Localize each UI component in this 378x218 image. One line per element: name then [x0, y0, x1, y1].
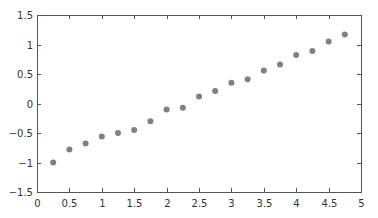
y-tick-label: 1 — [27, 40, 33, 51]
data-point — [326, 39, 332, 45]
x-tick-label: 3.5 — [257, 198, 273, 209]
x-tick-label: 0 — [34, 198, 40, 209]
data-point — [277, 62, 283, 68]
data-point — [196, 93, 202, 99]
x-tick-label: 4.5 — [322, 198, 338, 209]
x-tick-label: 3 — [228, 198, 234, 209]
data-point — [164, 106, 170, 112]
data-point — [309, 48, 315, 54]
scatter-points — [50, 31, 348, 165]
data-point — [212, 88, 218, 94]
y-tick-label: 0.5 — [17, 69, 33, 80]
y-tick-label: −1.5 — [9, 187, 33, 198]
y-tick-label: −0.5 — [9, 128, 33, 139]
x-tick-label: 2.5 — [192, 198, 208, 209]
data-point — [83, 141, 89, 147]
y-tick-label: 1.5 — [17, 10, 33, 21]
data-point — [99, 134, 105, 140]
axis-ticks — [37, 15, 362, 193]
x-tick-label: 0.5 — [62, 198, 78, 209]
x-tick-label: 5 — [358, 198, 364, 209]
data-point — [342, 31, 348, 37]
data-point — [147, 118, 153, 124]
x-axis-tick-labels: 00.511.522.533.544.55 — [34, 198, 364, 209]
x-tick-label: 1 — [99, 198, 105, 209]
y-tick-label: −1 — [18, 158, 33, 169]
data-point — [50, 160, 56, 166]
plot-area-frame — [38, 16, 362, 193]
data-point — [180, 105, 186, 111]
data-point — [66, 147, 72, 153]
y-axis-tick-labels: 1.510.50−0.5−1−1.5 — [9, 10, 33, 198]
scatter-chart: 00.511.522.533.544.55 1.510.50−0.5−1−1.5 — [0, 0, 378, 218]
data-point — [245, 76, 251, 82]
data-point — [131, 127, 137, 133]
data-point — [261, 67, 267, 73]
data-point — [115, 130, 121, 136]
data-point — [228, 80, 234, 86]
data-point — [293, 52, 299, 58]
x-tick-label: 4 — [293, 198, 299, 209]
y-tick-label: 0 — [27, 99, 33, 110]
x-tick-label: 2 — [164, 198, 170, 209]
x-tick-label: 1.5 — [127, 198, 143, 209]
